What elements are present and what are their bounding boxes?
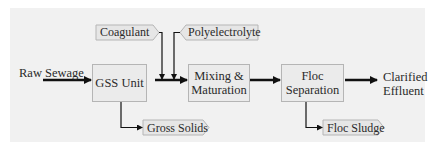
coagulant-tag: Coagulant bbox=[96, 25, 159, 40]
gss-unit-label: GSS Unit bbox=[95, 76, 143, 90]
gross-solids-line bbox=[121, 101, 142, 128]
mixing-maturation-box: Mixing & Maturation bbox=[188, 64, 250, 102]
raw-sewage-label: Raw Sewage bbox=[19, 67, 84, 80]
floc-sludge-line bbox=[306, 101, 322, 128]
floc-separation-box: Floc Separation bbox=[281, 64, 344, 102]
clarified-effluent-label: Clarified Effluent bbox=[383, 70, 427, 98]
polyelectrolyte-dosing-line bbox=[174, 33, 180, 80]
mixing-label-line1: Mixing & bbox=[194, 69, 244, 83]
effluent-line2: Effluent bbox=[383, 84, 427, 98]
coagulant-label: Coagulant bbox=[100, 25, 150, 39]
coagulant-dosing-line bbox=[159, 33, 162, 80]
floc-sep-label-line2: Separation bbox=[286, 83, 339, 97]
effluent-line1: Clarified bbox=[383, 70, 427, 84]
floc-sep-label-line1: Floc bbox=[301, 69, 323, 83]
floc-sludge-tag: Floc Sludge bbox=[323, 120, 385, 135]
gross-solids-label: Gross Solids bbox=[147, 121, 208, 135]
mixing-label-line2: Maturation bbox=[191, 83, 247, 97]
gross-solids-tag: Gross Solids bbox=[143, 120, 209, 135]
gss-unit-box: GSS Unit bbox=[92, 64, 147, 102]
polyelectrolyte-tag: Polyelectrolyte bbox=[180, 25, 261, 40]
polyelectrolyte-label: Polyelectrolyte bbox=[188, 25, 261, 39]
floc-sludge-label: Floc Sludge bbox=[327, 121, 385, 135]
